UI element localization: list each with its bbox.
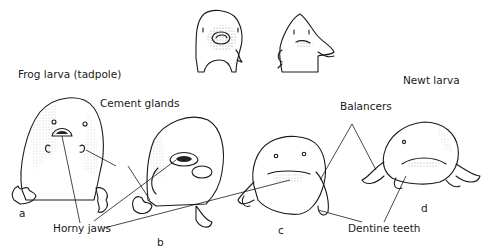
cement-glands-label: Cement glands [100,97,179,109]
leader-lines [62,124,406,228]
small-tadpole-top-view-drawing [196,10,242,72]
newt-larva-title: Newt larva [403,74,460,86]
panel-letter-d: d [421,202,428,214]
frog-larva-drawing-b [133,117,224,227]
panel-letter-b: b [157,236,164,248]
frog-larva-drawing-a [12,98,107,212]
small-newt-top-view-drawing [278,14,334,72]
illustration-canvas [0,0,489,250]
dentine-teeth-label: Dentine teeth [348,222,421,234]
newt-larva-drawing-d [362,122,480,189]
horny-jaws-label: Horny jaws [53,222,111,234]
panel-letter-c: c [278,224,284,236]
larva-comparison-figure: Frog larva (tadpole) Newt larva Cement g… [0,0,489,250]
newt-larva-drawing-c [238,136,328,214]
frog-larva-title: Frog larva (tadpole) [18,68,121,80]
balancers-label: Balancers [340,100,392,112]
panel-letter-a: a [19,207,25,219]
